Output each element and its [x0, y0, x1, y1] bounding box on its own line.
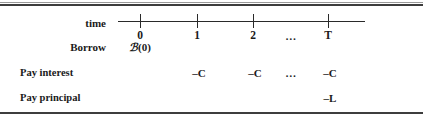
cash-flow-timeline-figure: 0 1 2 … T time Borrow Pay interest Pay p… [0, 0, 423, 121]
pay-interest-tT: –C [323, 67, 336, 79]
pay-interest-t1: –C [192, 67, 205, 79]
pay-principal-tT: –L [324, 92, 337, 104]
borrow-argument: (0) [138, 41, 151, 53]
tick-label-T: T [324, 29, 332, 41]
top-rule-thin [0, 2, 423, 3]
top-rule-thick [0, 4, 423, 6]
tick-label-0: 0 [137, 29, 143, 41]
axis-tick-0 [140, 14, 141, 28]
row-label-pay-principal: Pay principal [20, 92, 130, 103]
borrow-symbol: ℬ [129, 41, 138, 54]
axis-tick-2 [253, 14, 254, 28]
tick-label-ellipsis: … [285, 30, 297, 42]
tick-label-1: 1 [194, 29, 200, 41]
axis-tick-1 [197, 14, 198, 28]
pay-interest-t2: –C [248, 67, 261, 79]
axis-label-time: time [20, 17, 106, 29]
bottom-rule [0, 112, 423, 114]
row-label-pay-interest: Pay interest [20, 67, 130, 78]
borrow-value-t0: ℬ(0) [129, 41, 151, 54]
axis-tick-T [328, 14, 329, 28]
row-label-borrow: Borrow [20, 41, 106, 53]
tick-label-2: 2 [250, 29, 256, 41]
pay-interest-ellipsis: … [285, 67, 297, 79]
